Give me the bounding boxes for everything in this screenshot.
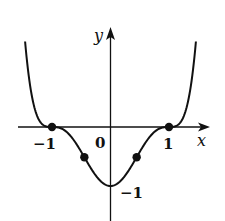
point-root-left	[48, 123, 56, 131]
point-inflection-left	[80, 153, 88, 161]
y-axis-label: y	[93, 26, 104, 45]
x-tick-label-pos-one: 1	[163, 135, 173, 153]
y-axis	[106, 27, 115, 221]
x-axis-label: x	[197, 131, 206, 150]
origin-label: 0	[95, 134, 105, 152]
point-inflection-right	[132, 153, 140, 161]
function-graph: y x 0 −1 1 −1	[0, 0, 225, 221]
y-tick-label-neg-one: −1	[120, 184, 143, 202]
x-tick-label-neg-one: −1	[33, 135, 56, 153]
point-root-right	[165, 123, 173, 131]
